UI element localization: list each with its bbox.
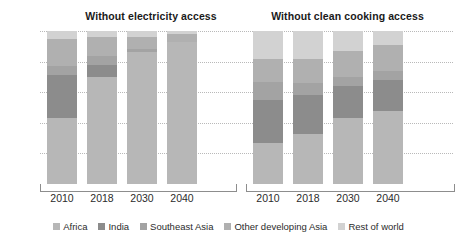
bar-segment[interactable]: [253, 31, 283, 59]
legend-swatch-icon: [98, 223, 105, 230]
bar-segment[interactable]: [47, 39, 77, 67]
bar-segment[interactable]: [47, 75, 77, 118]
bar-column[interactable]: [87, 31, 117, 184]
x-axis-label-2030: 2030: [326, 192, 370, 204]
bar-segment[interactable]: [253, 82, 283, 100]
bar-column[interactable]: [253, 31, 283, 184]
chart-figure: Without electricity access Without clean…: [0, 0, 457, 238]
bar-column[interactable]: [47, 31, 77, 184]
x-axis-label-2018: 2018: [80, 192, 124, 204]
legend-swatch-icon: [224, 223, 231, 230]
x-axis-label-2010: 2010: [40, 192, 84, 204]
bar-segment[interactable]: [293, 31, 323, 59]
bar-column[interactable]: [167, 31, 197, 184]
legend-label: Southeast Asia: [150, 221, 213, 232]
bar-segment[interactable]: [167, 34, 197, 42]
bar-segment[interactable]: [333, 118, 363, 184]
bar-segment[interactable]: [293, 95, 323, 133]
bar-segment[interactable]: [293, 83, 323, 95]
legend-label: Rest of world: [348, 221, 403, 232]
legend-item[interactable]: Africa: [53, 221, 87, 232]
bar-segment[interactable]: [253, 59, 283, 82]
x-axis-label-2010: 2010: [246, 192, 290, 204]
plot-area: 20%40%60%80%100%: [40, 31, 453, 184]
bar-segment[interactable]: [333, 77, 363, 86]
bar-segment[interactable]: [167, 42, 197, 184]
bar-segment[interactable]: [373, 80, 403, 111]
bar-segment[interactable]: [47, 66, 77, 75]
legend-swatch-icon: [338, 223, 345, 230]
legend-label: India: [108, 221, 129, 232]
legend-item[interactable]: Rest of world: [338, 221, 403, 232]
legend-label: Africa: [63, 221, 87, 232]
bar-segment[interactable]: [87, 37, 117, 55]
legend-swatch-icon: [140, 223, 147, 230]
bar-segment[interactable]: [87, 65, 117, 77]
bar-column[interactable]: [333, 31, 363, 184]
panel-title-cooking: Without clean cooking access: [245, 10, 450, 22]
bar-column[interactable]: [127, 31, 157, 184]
bar-segment[interactable]: [373, 45, 403, 71]
bar-segment[interactable]: [373, 31, 403, 45]
bar-column[interactable]: [373, 31, 403, 184]
bar-segment[interactable]: [47, 31, 77, 39]
x-axis-label-2040: 2040: [160, 192, 204, 204]
chart-legend: AfricaIndiaSoutheast AsiaOther developin…: [0, 216, 457, 236]
legend-item[interactable]: Southeast Asia: [140, 221, 213, 232]
bar-segment[interactable]: [253, 100, 283, 143]
bar-segment[interactable]: [87, 56, 117, 65]
bar-segment[interactable]: [253, 143, 283, 184]
bar-segment[interactable]: [293, 59, 323, 83]
bar-segment[interactable]: [373, 71, 403, 80]
bar-segment[interactable]: [127, 37, 157, 49]
bar-segment[interactable]: [333, 31, 363, 51]
bar-column[interactable]: [293, 31, 323, 184]
bar-segment[interactable]: [293, 134, 323, 184]
x-axis-label-2040: 2040: [366, 192, 410, 204]
x-axis-label-2018: 2018: [286, 192, 330, 204]
category-axis-left: [40, 184, 237, 192]
legend-item[interactable]: Other developing Asia: [224, 221, 327, 232]
legend-item[interactable]: India: [98, 221, 129, 232]
bar-segment[interactable]: [333, 51, 363, 77]
category-axis-right: [246, 184, 455, 192]
bar-segment[interactable]: [87, 77, 117, 184]
bar-segment[interactable]: [127, 52, 157, 184]
bar-segment[interactable]: [373, 111, 403, 184]
legend-label: Other developing Asia: [234, 221, 327, 232]
bar-segment[interactable]: [333, 86, 363, 118]
legend-swatch-icon: [53, 223, 60, 230]
bar-segment[interactable]: [47, 118, 77, 184]
x-axis-label-2030: 2030: [120, 192, 164, 204]
panel-title-electricity: Without electricity access: [56, 10, 246, 22]
